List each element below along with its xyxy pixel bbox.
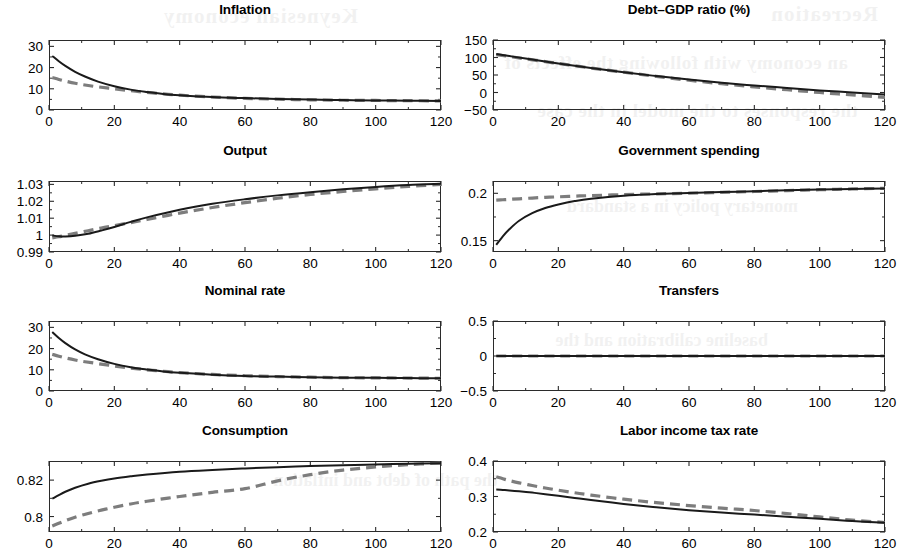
x-axis-tick-label: 120 [874, 536, 897, 551]
subplot-grid: Inflation0102030020406080100120Debt–GDP … [0, 0, 918, 556]
tick-marks [493, 461, 885, 532]
plot-canvas [0, 0, 918, 556]
x-axis-tick-label: 0 [489, 536, 497, 551]
y-axis-tick-label: 0.2 [405, 525, 487, 540]
y-axis-tick-label: 0.3 [405, 489, 487, 504]
x-axis-tick-label: 80 [747, 536, 762, 551]
y-axis-tick-label: 0.4 [405, 454, 487, 469]
x-axis-tick-label: 100 [808, 536, 831, 551]
x-axis-tick-label: 40 [616, 536, 631, 551]
x-axis-tick-label: 20 [551, 536, 566, 551]
series-dashed [496, 477, 885, 523]
x-axis-tick-label: 60 [681, 536, 696, 551]
subplot-labor-income-tax-rate: Labor income tax rate0.20.30.40204060801… [0, 0, 918, 556]
